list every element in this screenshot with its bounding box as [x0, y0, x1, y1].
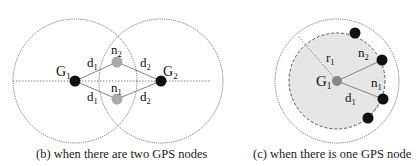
label-d1-upper: d1 [87, 55, 98, 72]
label-g1: G1 [56, 64, 71, 81]
label-d1-lower: d1 [87, 89, 98, 106]
gps-node-g1 [70, 76, 81, 87]
node-bottom [363, 113, 374, 124]
gps-node-g1 [332, 76, 342, 86]
label-n2: n2 [111, 42, 122, 59]
caption-panel-b: (b) when there are two GPS nodes [36, 147, 207, 162]
node-n1 [378, 94, 389, 105]
panel-b-two-gps: G1 G2 n2 n1 d1 d1 d2 d2 [13, 19, 223, 143]
label-g2: G2 [163, 64, 178, 81]
diagram-canvas: G1 G2 n2 n1 d1 d1 d2 d2 G1 r1 n2 n1 d1 [0, 0, 416, 166]
edge-g2-n1 [117, 81, 161, 99]
label-d2-lower: d2 [140, 89, 151, 106]
edge-g2-n2 [117, 62, 161, 81]
node-top [350, 28, 361, 39]
label-n1: n1 [111, 80, 122, 97]
label-d2-upper: d2 [140, 55, 151, 72]
node-n2 [377, 55, 388, 66]
panel-c-one-gps: G1 r1 n2 n1 d1 [275, 19, 399, 143]
caption-panel-c: (c) when there is one GPS node [253, 147, 411, 162]
